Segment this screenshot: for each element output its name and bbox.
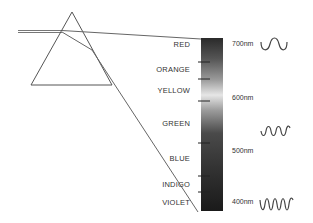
color-label-green: GREEN xyxy=(110,119,190,128)
color-label-yellow: YELLOW xyxy=(110,86,190,95)
spectrum-bar xyxy=(201,38,223,211)
prism-diagram xyxy=(0,0,313,223)
prism xyxy=(31,12,112,85)
color-label-violet: VIOLET xyxy=(110,198,190,207)
color-label-red: RED xyxy=(110,40,190,49)
wave-500nm-icon xyxy=(261,126,290,135)
wavelength-label-500: 500nm xyxy=(232,147,253,154)
wavelength-label-700: 700nm xyxy=(232,40,253,47)
color-label-orange: ORANGE xyxy=(110,65,190,74)
color-label-indigo: INDIGO xyxy=(110,180,190,189)
wavelength-label-400: 400nm xyxy=(232,198,253,205)
wavelength-label-600: 600nm xyxy=(232,94,253,101)
incoming-light-beam xyxy=(18,31,62,33)
color-label-blue: BLUE xyxy=(110,154,190,163)
wave-700nm-icon xyxy=(261,38,287,50)
wave-400nm-icon xyxy=(260,198,293,210)
